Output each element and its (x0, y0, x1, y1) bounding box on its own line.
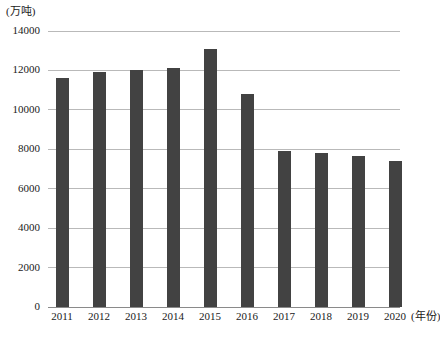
bar (278, 151, 291, 307)
x-axis-tick-label: 2017 (273, 310, 295, 323)
bar (204, 49, 217, 307)
bar (241, 94, 254, 307)
bar (130, 70, 143, 307)
y-axis-tick-label: 10000 (13, 104, 41, 115)
x-axis-tick-label: 2011 (51, 310, 73, 323)
x-axis-tick-label: 2016 (236, 310, 258, 323)
y-axis-tick-label: 14000 (13, 25, 41, 36)
y-axis-tick-labels: 02000400060008000100001200014000 (0, 31, 44, 307)
bar-series (48, 31, 400, 307)
bar (389, 161, 402, 307)
x-axis-tick-label: 2015 (199, 310, 221, 323)
y-axis-unit-label: (万吨) (6, 5, 35, 17)
bar (93, 72, 106, 307)
y-axis-tick-label: 6000 (18, 183, 40, 194)
x-axis-tick-label: 2018 (310, 310, 332, 323)
bar (167, 68, 180, 307)
y-axis-tick-label: 4000 (18, 222, 40, 233)
y-axis-tick-label: 8000 (18, 143, 40, 154)
y-axis-tick-label: 12000 (13, 64, 41, 75)
x-axis-tick-label: 2013 (125, 310, 147, 323)
x-axis-tick-labels: (年份) 20112012201320142015201620172018201… (48, 310, 438, 326)
x-axis-unit-label: (年份) (411, 310, 440, 323)
x-axis-tick-label: 2014 (162, 310, 184, 323)
y-axis-tick-label: 2000 (18, 262, 40, 273)
y-axis-tick-label: 0 (35, 301, 41, 312)
bar (56, 78, 69, 307)
bar (352, 156, 365, 307)
plot-area (48, 31, 400, 307)
x-axis-tick-label: 2019 (347, 310, 369, 323)
x-axis-tick-label: 2020 (384, 310, 406, 323)
x-axis-tick-label: 2012 (88, 310, 110, 323)
bar (315, 153, 328, 307)
